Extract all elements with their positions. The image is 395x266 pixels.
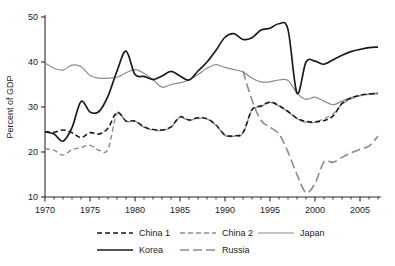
x-tick-label: 1990 bbox=[215, 205, 235, 215]
x-tick-label: 1985 bbox=[170, 205, 190, 215]
y-tick-label: 40 bbox=[28, 57, 38, 67]
x-tick-label: 2000 bbox=[305, 205, 325, 215]
series-line-china-1 bbox=[45, 94, 378, 138]
series-line-japan bbox=[45, 63, 378, 105]
series-line-korea bbox=[45, 22, 378, 141]
y-tick-label: 10 bbox=[28, 192, 38, 202]
x-tick-label: 1970 bbox=[35, 205, 55, 215]
y-tick-label: 20 bbox=[28, 147, 38, 157]
series-line-russia bbox=[243, 71, 378, 193]
chart-figure: 1020304050197019751980198519901995200020… bbox=[0, 0, 395, 266]
x-tick-label: 1975 bbox=[80, 205, 100, 215]
legend-label-china-1: China 1 bbox=[139, 228, 170, 238]
x-tick-label: 1995 bbox=[260, 205, 280, 215]
legend-label-china-2: China 2 bbox=[222, 228, 253, 238]
line-chart: 1020304050197019751980198519901995200020… bbox=[0, 0, 395, 266]
x-tick-label: 2005 bbox=[350, 205, 370, 215]
legend-label-japan: Japan bbox=[300, 228, 325, 238]
legend-label-russia: Russia bbox=[222, 245, 250, 255]
x-tick-label: 1980 bbox=[125, 205, 145, 215]
legend-label-korea: Korea bbox=[139, 245, 163, 255]
y-tick-label: 50 bbox=[28, 12, 38, 22]
y-tick-label: 30 bbox=[28, 102, 38, 112]
y-axis-title: Percent of GDP bbox=[5, 75, 15, 138]
